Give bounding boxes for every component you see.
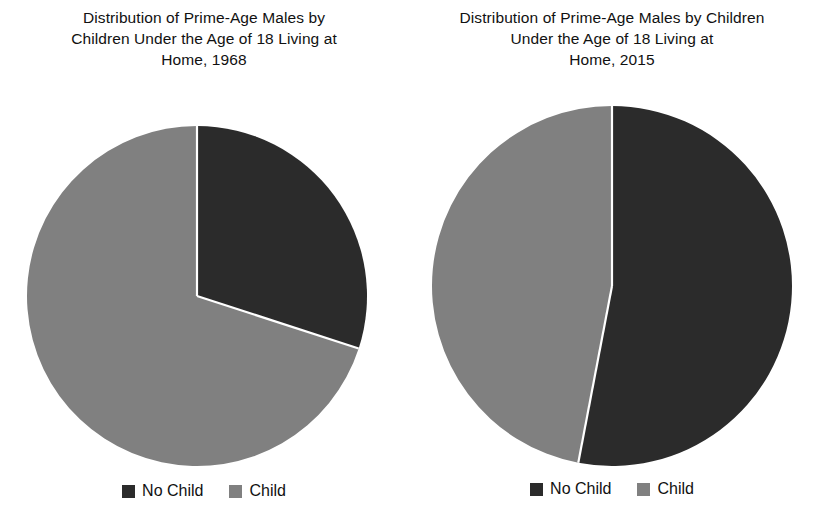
legend-swatch-no-child-icon: [122, 485, 135, 498]
legend-label-no-child: No Child: [142, 483, 203, 499]
page-title-2015: Distribution of Prime-Age Males by Child…: [437, 7, 787, 70]
legend-label-child: Child: [657, 481, 693, 497]
legend-swatch-child-icon: [637, 483, 650, 496]
pie-chart-1968: [26, 125, 368, 467]
legend-label-no-child: No Child: [550, 481, 611, 497]
legend-item-no-child-1968[interactable]: No Child: [122, 483, 203, 499]
pie-slice-child-2015[interactable]: [432, 106, 612, 463]
legend-item-no-child-2015[interactable]: No Child: [530, 481, 611, 497]
legend-swatch-child-icon: [229, 485, 242, 498]
legend-1968: No Child Child: [0, 483, 408, 499]
pie-chart-2015: [431, 105, 793, 467]
legend-swatch-no-child-icon: [530, 483, 543, 496]
legend-2015: No Child Child: [408, 481, 816, 497]
pie-wrap-2015: [431, 105, 793, 467]
chart-panel-2015: Distribution of Prime-Age Males by Child…: [408, 0, 816, 532]
legend-item-child-2015[interactable]: Child: [637, 481, 693, 497]
legend-label-child: Child: [249, 483, 285, 499]
legend-item-child-1968[interactable]: Child: [229, 483, 285, 499]
page-title-1968: Distribution of Prime-Age Males by Child…: [39, 7, 369, 70]
pie-wrap-1968: [26, 125, 368, 467]
chart-panel-1968: Distribution of Prime-Age Males by Child…: [0, 0, 408, 532]
pie-chart-figure: Distribution of Prime-Age Males by Child…: [0, 0, 816, 532]
